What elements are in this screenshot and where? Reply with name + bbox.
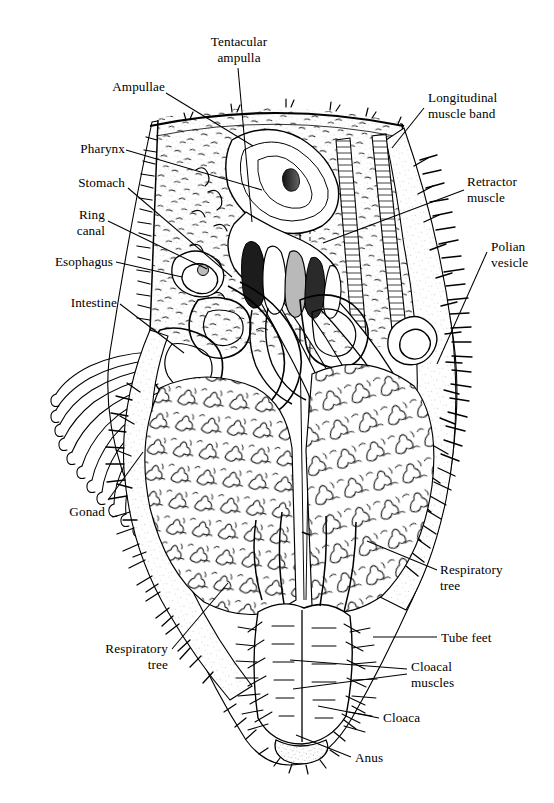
label-ampullae: Ampullae	[45, 79, 165, 95]
label-cloacal-muscles: Cloacal muscles	[411, 659, 531, 690]
label-esophagus: Esophagus	[12, 254, 113, 270]
label-ring-canal: Ring canal	[20, 207, 105, 238]
label-longitudinal-muscle-band: Longitudinal muscle band	[428, 90, 548, 121]
label-polian-vesicle: Polian vesicle	[491, 239, 554, 270]
label-respiratory-tree-left: Respiratory tree	[50, 641, 168, 672]
label-tentacular-ampulla: Tentacular ampulla	[184, 34, 294, 65]
label-stomach: Stomach	[20, 175, 125, 191]
label-cloaca: Cloaca	[383, 710, 493, 726]
figure-canvas: Tentacular ampulla Ampullae Longitudinal…	[0, 0, 554, 803]
label-respiratory-tree-right: Respiratory tree	[440, 562, 550, 593]
label-tube-feet: Tube feet	[441, 630, 551, 646]
label-retractor-muscle: Retractor muscle	[467, 174, 554, 205]
label-pharynx: Pharynx	[20, 141, 125, 157]
label-intestine: Intestine	[20, 295, 117, 311]
label-gonad: Gonad	[20, 504, 105, 520]
label-anus: Anus	[355, 750, 455, 766]
